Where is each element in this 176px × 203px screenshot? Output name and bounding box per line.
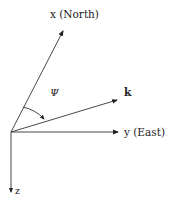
x-axis-arrow: [11, 31, 63, 132]
k-vector-label: k: [124, 86, 132, 98]
z-axis-label: z: [15, 186, 20, 196]
y-axis-label: y (East): [123, 126, 165, 138]
x-axis-label: x (North): [50, 8, 99, 20]
k-vector-arrow: [11, 100, 117, 132]
psi-angle-arc: [23, 107, 44, 119]
coordinate-diagram: x (North) k y (East) z Ψ: [0, 0, 176, 203]
psi-angle-label: Ψ: [50, 87, 60, 98]
